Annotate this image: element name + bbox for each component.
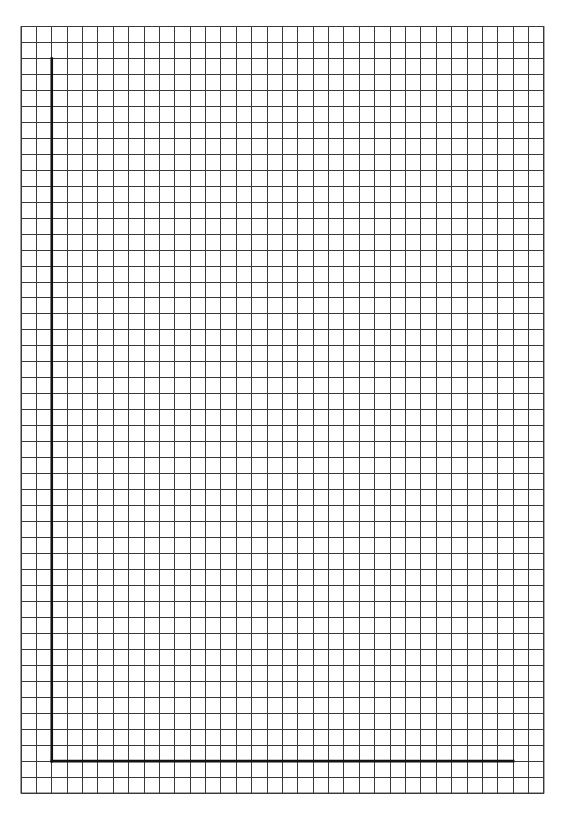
graph-paper (0, 0, 563, 816)
grid-lines (21, 27, 544, 794)
